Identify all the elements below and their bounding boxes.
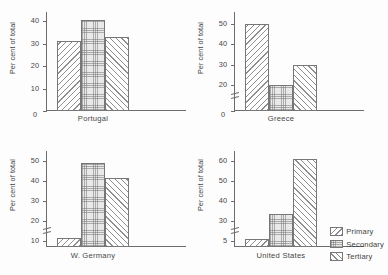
y-tick-label: 20 <box>219 81 227 88</box>
y-axis-label: Per cent of total <box>196 22 205 74</box>
bar-series-greece <box>234 12 364 111</box>
y-tick-label: 40 <box>219 197 227 204</box>
bar-tertiary <box>105 37 129 111</box>
y-tick-label: 20 <box>31 217 39 224</box>
bar-secondary <box>81 20 105 111</box>
bar-secondary <box>269 214 293 247</box>
legend-label-secondary: Secondary <box>346 240 384 249</box>
y-tick-label: 10 <box>31 237 39 244</box>
bar-secondary <box>81 163 105 248</box>
legend-label-primary: Primary <box>346 227 373 236</box>
legend-label-tertiary: Tertiary <box>346 252 372 261</box>
legend-item-tertiary: Tertiary <box>330 252 384 261</box>
plot-area-greece: 20 30 40 50 <box>234 12 364 111</box>
y-axis-zero-label: 0 <box>221 110 225 119</box>
bar-tertiary <box>293 65 317 111</box>
y-axis-label: Per cent of total <box>8 159 17 211</box>
category-label-greece: Greece <box>234 114 328 123</box>
y-axis-label: Per cent of total <box>196 159 205 211</box>
bar-tertiary <box>293 159 317 247</box>
bar-series-portugal <box>46 12 186 111</box>
y-tick-label: 30 <box>31 40 39 47</box>
y-tick-label: 5 <box>223 237 227 244</box>
y-axis-label: Per cent of total <box>8 22 17 74</box>
y-tick-label: 50 <box>31 157 39 164</box>
bar-primary <box>57 41 81 111</box>
y-tick-label: 50 <box>219 20 227 27</box>
bar-primary <box>245 239 269 247</box>
y-tick-label: 40 <box>31 17 39 24</box>
legend-item-primary: Primary <box>330 227 384 236</box>
bar-series-west-germany <box>46 151 186 247</box>
y-tick-label: 10 <box>31 85 39 92</box>
y-axis-zero-label: 0 <box>33 110 37 119</box>
legend: Primary Secondary Tertiary <box>330 227 384 261</box>
chart-panel-west-germany: Per cent of total 10 20 30 40 50 <box>0 137 194 275</box>
y-tick <box>43 111 47 112</box>
chart-panel-portugal: Per cent of total 0 10 20 30 40 Portugal <box>0 0 194 137</box>
y-tick-label: 30 <box>31 197 39 204</box>
y-tick-label: 30 <box>219 61 227 68</box>
legend-swatch-tertiary-icon <box>330 252 343 261</box>
y-tick-label: 40 <box>31 177 39 184</box>
bar-secondary <box>269 85 293 112</box>
plot-area-portugal: 10 20 30 40 <box>46 12 186 111</box>
y-tick-label: 60 <box>219 157 227 164</box>
category-label-west-germany: W. Germany <box>46 251 140 260</box>
y-tick-label: 30 <box>219 217 227 224</box>
category-label-united-states: United States <box>234 251 328 260</box>
legend-swatch-secondary-icon <box>330 240 343 249</box>
y-tick-label: 20 <box>31 62 39 69</box>
legend-swatch-primary-icon <box>330 227 343 236</box>
y-tick-label: 50 <box>219 177 227 184</box>
y-tick-label: 40 <box>219 40 227 47</box>
plot-area-west-germany: 10 20 30 40 50 <box>46 151 186 247</box>
bar-primary <box>57 238 81 248</box>
bar-primary <box>245 24 269 112</box>
bar-tertiary <box>105 178 129 248</box>
category-label-portugal: Portugal <box>46 114 140 123</box>
legend-item-secondary: Secondary <box>330 240 384 249</box>
chart-panel-greece: Per cent of total 0 20 30 40 50 G <box>194 0 388 137</box>
y-tick <box>231 111 235 112</box>
